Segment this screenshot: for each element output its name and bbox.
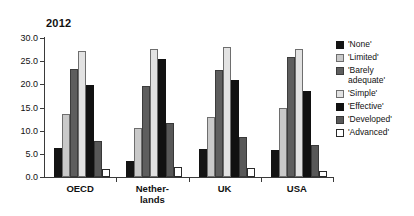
x-axis-tick [189, 177, 190, 182]
bar-group [126, 38, 182, 177]
y-axis-tick-label: 15.0 [20, 103, 38, 113]
bar[interactable] [166, 123, 174, 177]
y-axis-tick-label: 10.0 [20, 126, 38, 136]
bar[interactable] [271, 150, 279, 177]
bar[interactable] [295, 49, 303, 177]
legend-item[interactable]: 'Limited' [336, 53, 412, 63]
chart-legend: 'None''Limited''Barely adequate''Simple'… [336, 40, 412, 141]
bar[interactable] [223, 47, 231, 177]
legend-swatch-icon [336, 103, 344, 111]
bar[interactable] [126, 161, 134, 177]
y-axis-tick-label: 20.0 [20, 79, 38, 89]
bar[interactable] [94, 141, 102, 177]
bar[interactable] [311, 145, 319, 177]
legend-item[interactable]: 'Effective' [336, 102, 412, 112]
plot-area [44, 38, 333, 177]
x-axis-category-label: Nether- lands [116, 183, 188, 205]
x-axis-category-label: UK [189, 183, 261, 194]
bar[interactable] [215, 70, 223, 177]
legend-swatch-icon [336, 67, 344, 75]
legend-item-label: 'Developed' [348, 115, 392, 125]
bar[interactable] [207, 117, 215, 177]
legend-item[interactable]: 'Developed' [336, 115, 412, 125]
bar-group [54, 38, 110, 177]
legend-item-label: 'Limited' [348, 53, 379, 63]
bar[interactable] [78, 51, 86, 177]
legend-swatch-icon [336, 116, 344, 124]
legend-item-label: 'Simple' [348, 89, 377, 99]
bar[interactable] [287, 57, 295, 177]
legend-item-label: 'Barely adequate' [348, 66, 385, 85]
legend-swatch-icon [336, 41, 344, 49]
bar[interactable] [150, 49, 158, 177]
bar[interactable] [86, 85, 94, 177]
bar[interactable] [174, 167, 182, 177]
bar[interactable] [303, 91, 311, 177]
legend-item-label: 'None' [348, 40, 372, 50]
x-axis-tick [261, 177, 262, 182]
bar-group [271, 38, 327, 177]
bar[interactable] [134, 128, 142, 177]
bar[interactable] [102, 169, 110, 177]
y-axis-tick-label: 5.0 [25, 149, 38, 159]
bar-group [199, 38, 255, 177]
x-axis-tick [333, 177, 334, 182]
y-axis-tick-label: 25.0 [20, 56, 38, 66]
chart-title: 2012 [46, 17, 71, 29]
legend-item-label: 'Advanced' [348, 128, 389, 138]
bar[interactable] [54, 148, 62, 177]
bar[interactable] [231, 80, 239, 177]
bar[interactable] [142, 86, 150, 177]
bar[interactable] [239, 137, 247, 177]
legend-swatch-icon [336, 54, 344, 62]
legend-item[interactable]: 'Barely adequate' [336, 66, 412, 85]
y-axis-tick-label: 30.0 [20, 33, 38, 43]
x-axis-tick [116, 177, 117, 182]
legend-item-label: 'Effective' [348, 102, 384, 112]
y-axis-tick [40, 177, 44, 178]
legend-item[interactable]: 'Advanced' [336, 128, 412, 138]
chart-container: 2012 0.05.010.015.020.025.030.0 'None''L… [0, 0, 414, 216]
bar[interactable] [279, 108, 287, 177]
legend-item[interactable]: 'Simple' [336, 89, 412, 99]
bar[interactable] [62, 114, 70, 177]
y-axis-tick-label: 0.0 [25, 172, 38, 182]
legend-swatch-icon [336, 90, 344, 98]
legend-item[interactable]: 'None' [336, 40, 412, 50]
legend-swatch-icon [336, 129, 344, 137]
bar[interactable] [158, 59, 166, 177]
x-axis-category-label: OECD [44, 183, 116, 194]
x-axis-category-label: USA [261, 183, 333, 194]
bar[interactable] [70, 69, 78, 177]
bar[interactable] [319, 171, 327, 177]
bar[interactable] [247, 168, 255, 177]
bar[interactable] [199, 149, 207, 177]
